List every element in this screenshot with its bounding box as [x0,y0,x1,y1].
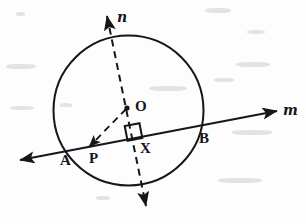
scan-speck [149,86,187,91]
circle-O [54,36,204,186]
scan-speck [236,62,270,67]
scan-speck [218,178,262,183]
scan-speck [205,8,231,13]
line-label-m: m [283,103,298,117]
scan-speck [214,78,234,82]
scan-speck [10,106,34,110]
scan-speck [16,12,25,16]
point-label-A: A [60,153,71,168]
line-label-n: n [117,10,127,24]
point-label-P: P [89,151,98,166]
scan-speck [6,64,36,69]
scan-speck [60,103,72,107]
geometry-figure: m n O A P X B [0,0,306,224]
point-label-O: O [135,99,147,114]
point-O-dot [124,105,129,110]
scan-speck [247,30,265,34]
point-label-X: X [140,141,151,156]
scan-speck [232,130,272,135]
scan-speck [96,196,110,200]
point-label-B: B [199,131,209,146]
